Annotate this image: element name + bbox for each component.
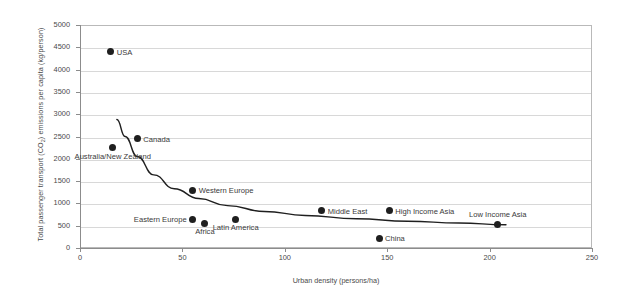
data-point-label: Eastern Europe: [134, 216, 187, 224]
gridline: [81, 227, 591, 228]
x-tick-label: 0: [60, 254, 100, 261]
gridline: [81, 48, 591, 49]
x-tick-mark: [387, 248, 388, 252]
x-tick-mark: [592, 248, 593, 252]
data-point-label: Western Europe: [199, 187, 254, 195]
y-tick-label: 3500: [26, 88, 70, 95]
y-tick-mark: [76, 181, 80, 182]
data-point[interactable]: [189, 187, 196, 194]
data-point-label: USA: [117, 48, 133, 56]
y-tick-label: 5000: [26, 21, 70, 28]
x-tick-mark: [182, 248, 183, 252]
gridline: [81, 182, 591, 183]
y-tick-mark: [76, 25, 80, 26]
y-tick-label: 500: [26, 222, 70, 229]
y-tick-label: 4000: [26, 66, 70, 73]
y-tick-label: 2000: [26, 155, 70, 162]
x-tick-label: 150: [367, 254, 407, 261]
data-point-label: High Income Asia: [395, 207, 454, 215]
y-tick-mark: [76, 92, 80, 93]
data-point-label: Low Income Asia: [469, 211, 526, 219]
y-tick-label: 3000: [26, 110, 70, 117]
x-axis-title: Urban density (persons/ha): [80, 276, 592, 285]
y-tick-label: 1000: [26, 199, 70, 206]
gridline: [81, 93, 591, 94]
x-tick-mark: [285, 248, 286, 252]
y-tick-label: 1500: [26, 177, 70, 184]
data-point[interactable]: [376, 235, 383, 242]
gridline: [81, 115, 591, 116]
y-tick-mark: [76, 203, 80, 204]
y-tick-mark: [76, 114, 80, 115]
x-tick-label: 100: [265, 254, 305, 261]
y-tick-mark: [76, 70, 80, 71]
x-tick-label: 200: [470, 254, 510, 261]
data-point-label: Canada: [143, 135, 170, 143]
y-tick-mark: [76, 226, 80, 227]
data-point-label: Australia/New Zealand: [75, 153, 151, 161]
x-tick-label: 250: [572, 254, 612, 261]
x-tick-mark: [80, 248, 81, 252]
data-point-label: China: [385, 235, 405, 243]
data-point-label: Middle East: [328, 207, 368, 215]
gridline: [81, 160, 591, 161]
scatter-chart: Total passenger transport (CO2) emission…: [0, 0, 625, 301]
y-tick-label: 0: [26, 244, 70, 251]
y-tick-mark: [76, 47, 80, 48]
x-tick-label: 50: [162, 254, 202, 261]
y-axis-line: [80, 25, 81, 249]
y-tick-label: 4500: [26, 43, 70, 50]
data-point[interactable]: [232, 216, 239, 223]
x-tick-mark: [490, 248, 491, 252]
gridline: [81, 71, 591, 72]
y-tick-mark: [76, 137, 80, 138]
gridline: [81, 204, 591, 205]
x-axis-line: [80, 248, 592, 249]
data-point-label: Latin America: [213, 224, 259, 232]
y-tick-label: 2500: [26, 133, 70, 140]
data-point[interactable]: [189, 216, 196, 223]
